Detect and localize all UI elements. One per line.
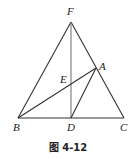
geometry-figure: F A E B D C 图 4-12: [0, 0, 135, 159]
segment-BA: [18, 68, 96, 118]
segment-FB: [18, 22, 71, 118]
segment-FC: [71, 22, 124, 118]
label-B: B: [13, 121, 20, 133]
label-E: E: [59, 73, 67, 85]
label-F: F: [66, 5, 74, 17]
label-A: A: [98, 60, 106, 72]
segments: [18, 22, 124, 118]
figure-caption: 图 4-12: [49, 142, 88, 153]
label-D: D: [66, 121, 75, 133]
label-C: C: [120, 121, 128, 133]
